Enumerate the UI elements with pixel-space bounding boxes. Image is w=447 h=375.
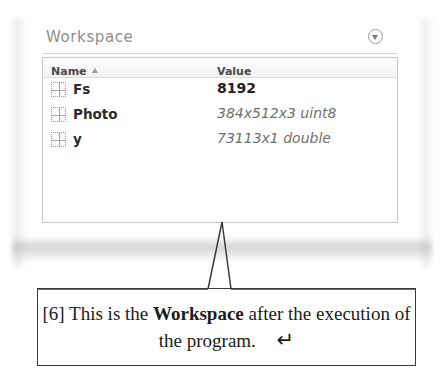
workspace-panel: Workspace Name Value Fs 8192 Photo 384 [40,26,400,226]
matrix-grid-icon [51,107,66,122]
screenshot-root: Workspace Name Value Fs 8192 Photo 384 [0,0,447,375]
caption-emphasis: Workspace [153,303,244,324]
table-row[interactable]: Fs 8192 [43,78,397,103]
variable-name: y [73,131,82,147]
workspace-panel-title: Workspace [46,28,133,46]
table-header-row: Name Value [43,58,397,78]
column-header-name-label: Name [51,65,87,78]
variable-value: 73113x1 double [217,130,331,146]
workspace-variables-table: Name Value Fs 8192 Photo 384x512x3 uint8… [42,57,398,223]
column-header-value[interactable]: Value [217,61,251,79]
matrix-grid-icon [51,82,66,97]
matrix-grid-icon [51,132,66,147]
return-arrow-icon: ↵ [277,328,295,352]
table-row[interactable]: y 73113x1 double [43,128,397,153]
variable-value: 384x512x3 uint8 [217,105,336,121]
workspace-title-divider [42,53,398,54]
caption-marker: [6] [43,303,65,324]
scan-shadow-left [10,18,26,268]
caption-text-before: This is the [69,303,148,324]
variable-value: 8192 [217,80,256,96]
figure-caption-text: [6] This is the Workspace after the exec… [38,301,415,354]
scan-shadow-horizontal [12,236,432,262]
figure-caption-box: [6] This is the Workspace after the exec… [37,288,416,366]
variable-name: Fs [73,81,90,97]
sort-ascending-icon [92,68,98,73]
column-header-name[interactable]: Name [51,61,98,79]
table-row[interactable]: Photo 384x512x3 uint8 [43,103,397,128]
scan-shadow-right [418,18,434,268]
chevron-down-circle-icon[interactable] [368,29,383,44]
column-header-value-label: Value [217,65,251,78]
variable-name: Photo [73,106,118,122]
